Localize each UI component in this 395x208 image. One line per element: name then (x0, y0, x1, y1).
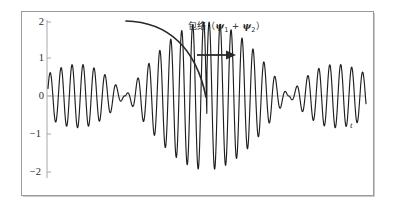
psi-symbol-2: ψ (243, 21, 252, 31)
y-tick-label-2: 2 (26, 17, 44, 27)
y-axis-ticks (47, 22, 51, 172)
y-tick-label-minus-2: −2 (23, 167, 41, 177)
time-axis-label: t (350, 120, 353, 130)
annotation-prefix: 包络（ (188, 21, 216, 31)
y-tick-label-minus-1: −1 (23, 129, 41, 139)
envelope-annotation-label: 包络（ψ1 + ψ2） (188, 19, 265, 34)
figure-page: 2 1 0 −1 −2 包络（ψ1 + ψ2） t (0, 0, 395, 208)
y-tick-label-1: 1 (26, 53, 44, 63)
y-tick-label-0: 0 (26, 91, 44, 101)
annotation-suffix: ） (256, 21, 265, 31)
psi-symbol-1: ψ (216, 21, 225, 31)
annotation-plus: + (229, 21, 243, 31)
